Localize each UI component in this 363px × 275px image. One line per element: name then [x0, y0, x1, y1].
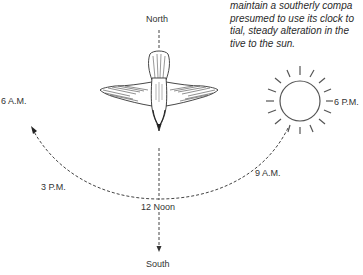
six-am-label: 6 A.M. [1, 96, 27, 106]
south-arrowhead-icon [157, 246, 162, 252]
three-pm-label: 3 P.M. [41, 182, 66, 192]
bird-in-flight-icon [100, 51, 218, 131]
sun-icon [266, 66, 333, 134]
west-arrowhead-icon [31, 126, 37, 134]
south-label: South [146, 259, 170, 269]
sun-path-arc [33, 128, 288, 199]
six-pm-label: 6 P.M. [334, 97, 359, 107]
north-label: North [146, 14, 168, 24]
nine-am-label: 9 A.M. [255, 168, 281, 178]
noon-label: 12 Noon [141, 202, 175, 212]
